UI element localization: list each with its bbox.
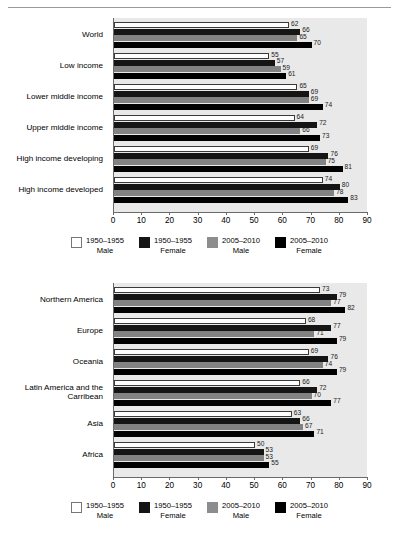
tick-mark (226, 212, 227, 215)
bar-value-label: 82 (347, 305, 354, 312)
tick-mark (254, 477, 255, 480)
bar-group: 63666771 (114, 411, 367, 437)
bar (114, 153, 328, 159)
tick-mark (282, 477, 283, 480)
tick-mark (169, 212, 170, 215)
bar (114, 29, 300, 35)
bar-value-label: 70 (314, 392, 321, 399)
legend-swatch-black (139, 502, 150, 513)
legend-item[interactable]: 2005–2010Male (207, 501, 260, 521)
bar (114, 166, 343, 172)
tick-label: 50 (250, 216, 259, 225)
bar (114, 400, 331, 406)
tick-mark (169, 477, 170, 480)
bar (114, 35, 297, 41)
bar (114, 449, 264, 455)
legend-label-sex: Male (86, 246, 124, 256)
legend-label-period: 2005–2010 (222, 501, 260, 511)
bar (114, 135, 320, 141)
legend-swatch-white (71, 237, 82, 248)
bar-group: 68777179 (114, 318, 367, 344)
legend-label-sex: Male (86, 511, 124, 521)
x-axis-ticks: 0102030405060708090 (113, 212, 367, 228)
legend-label: 2005–2010Male (222, 501, 260, 521)
bar (114, 331, 314, 337)
legend-item[interactable]: 1950–1955Female (139, 501, 192, 521)
bar (114, 115, 295, 121)
bar (114, 53, 269, 59)
bar (114, 287, 320, 293)
bar-group: 69767581 (114, 146, 367, 172)
bar-value-label: 77 (333, 323, 340, 330)
tick-label: 30 (193, 216, 202, 225)
legend-item[interactable]: 2005–2010Male (207, 236, 260, 256)
bar-value-label: 69 (311, 96, 318, 103)
bar (114, 104, 323, 110)
bar-value-label: 55 (271, 460, 278, 467)
chart-regions: Northern AmericaEuropeOceaniaLatin Ameri… (0, 283, 399, 529)
bar-value-label: 74 (325, 176, 332, 183)
legend-label-sex: Female (154, 511, 192, 521)
tick-label: 10 (137, 481, 146, 490)
bar-group: 69767479 (114, 349, 367, 375)
legend-swatch-black (139, 237, 150, 248)
bar (114, 60, 275, 66)
bar (114, 418, 300, 424)
legend-label-sex: Female (290, 511, 328, 521)
bar-value-label: 71 (316, 429, 323, 436)
legend-swatch-white (71, 502, 82, 513)
legend-label-period: 1950–1955 (86, 501, 124, 511)
legend-item[interactable]: 1950–1955Male (71, 236, 124, 256)
tick-label: 40 (221, 216, 230, 225)
bar (114, 184, 340, 190)
legend-item[interactable]: 1950–1955Male (71, 501, 124, 521)
legend-item[interactable]: 1950–1955Female (139, 236, 192, 256)
legend-label-sex: Female (290, 246, 328, 256)
tick-label: 80 (334, 216, 343, 225)
category-label: Oceania (0, 357, 108, 366)
bar (114, 455, 264, 461)
category-label: High income developed (0, 185, 108, 194)
bar-value-label: 65 (299, 83, 306, 90)
legend-label: 1950–1955Male (86, 501, 124, 521)
bar-group: 62666570 (114, 22, 367, 48)
legend-label: 2005–2010Male (222, 236, 260, 256)
legend-label-period: 1950–1955 (154, 501, 192, 511)
bar (114, 300, 331, 306)
legend-label: 2005–2010Female (290, 236, 328, 256)
tick-mark (198, 477, 199, 480)
bar (114, 84, 297, 90)
bar (114, 146, 309, 152)
bar (114, 393, 312, 399)
x-axis-ticks: 0102030405060708090 (113, 477, 367, 493)
bar (114, 42, 312, 48)
category-label: Low income (0, 61, 108, 70)
bar-value-label: 64 (297, 114, 304, 121)
bar-value-label: 69 (311, 348, 318, 355)
legend-item[interactable]: 2005–2010Female (275, 236, 328, 256)
legend-item[interactable]: 2005–2010Female (275, 501, 328, 521)
legend-swatch-gray (207, 502, 218, 513)
tick-mark (141, 212, 142, 215)
category-label: World (0, 30, 108, 39)
bar-group: 55575961 (114, 53, 367, 79)
plot-area: 7379778268777179697674796672707763666771… (113, 283, 367, 477)
bar (114, 380, 300, 386)
bar-value-label: 66 (302, 127, 309, 134)
legend-label: 1950–1955Female (154, 501, 192, 521)
legend-swatch-gray (207, 237, 218, 248)
bar (114, 73, 286, 79)
bar (114, 66, 281, 72)
bar-value-label: 61 (288, 71, 295, 78)
bar (114, 159, 326, 165)
legend-label: 1950–1955Male (86, 236, 124, 256)
bar-value-label: 73 (322, 286, 329, 293)
bar (114, 318, 306, 324)
bar-value-label: 81 (345, 164, 352, 171)
tick-label: 20 (165, 216, 174, 225)
bar-value-label: 71 (316, 330, 323, 337)
tick-label: 20 (165, 481, 174, 490)
bar-value-label: 62 (291, 21, 298, 28)
category-label: Upper middle income (0, 123, 108, 132)
bar (114, 349, 309, 355)
